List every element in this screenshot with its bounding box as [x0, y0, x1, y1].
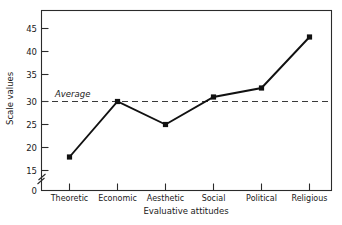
data-point-aesthetic [163, 122, 168, 127]
x-tick-label-aesthetic: Aesthetic [147, 194, 184, 203]
series-markers [67, 34, 312, 159]
x-axis-title: Evaluative attitudes [143, 206, 229, 216]
x-tick-label-religious: Religious [292, 194, 328, 203]
y-tick-marks [42, 29, 49, 171]
data-point-religious [307, 34, 312, 39]
chart-figure: 45 40 35 30 25 20 15 0 Scale values Aver… [0, 0, 342, 225]
average-annotation-label: Average [54, 89, 90, 99]
x-tick-label-political: Political [246, 194, 277, 203]
y-axis-title: Scale values [5, 71, 15, 125]
data-point-economic [115, 99, 120, 104]
y-tick-label-20: 20 [26, 143, 37, 153]
data-point-political [259, 85, 264, 90]
y-tick-label-30: 30 [26, 97, 37, 107]
x-tick-label-economic: Economic [98, 194, 137, 203]
y-tick-label-40: 40 [26, 47, 37, 57]
data-point-theoretic [67, 154, 72, 159]
y-tick-label-25: 25 [26, 120, 37, 130]
plot-frame [42, 11, 332, 191]
data-point-social [211, 94, 216, 99]
x-tick-label-social: Social [202, 194, 226, 203]
x-tick-label-theoretic: Theoretic [50, 194, 89, 203]
y-tick-label-35: 35 [26, 70, 37, 80]
line-chart-svg: 45 40 35 30 25 20 15 0 Scale values Aver… [0, 0, 342, 225]
y-tick-label-0: 0 [32, 186, 37, 196]
y-tick-label-15: 15 [26, 166, 37, 176]
x-tick-marks [70, 184, 310, 191]
series-line-scale-values [70, 37, 310, 157]
y-tick-label-45: 45 [26, 24, 37, 34]
